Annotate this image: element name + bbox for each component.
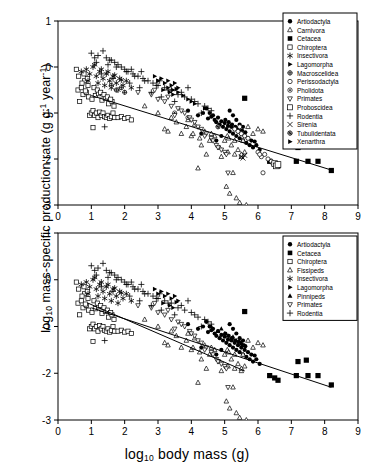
point-primates — [162, 313, 167, 317]
point-carnivora — [219, 154, 224, 158]
point-primates — [172, 327, 177, 331]
y-axis-label-rest: mass-specific production rate (g g — [39, 111, 53, 306]
figure-root: 012345678910-1-2-3ArtiodactylaCarnivoraC… — [0, 0, 374, 474]
point-rodentia — [119, 64, 124, 69]
series-primates — [136, 88, 231, 175]
point-artiodactyla — [196, 113, 200, 117]
point-chiroptera — [91, 339, 95, 343]
point-insectivora — [116, 300, 121, 305]
point-fissipeds — [156, 324, 161, 328]
legend-label: Artiodactyla — [297, 18, 331, 26]
panel-bottom: 012345678910-1-2-3ArtiodactylaCetaceaChi… — [42, 228, 361, 438]
point-chiroptera — [79, 299, 83, 303]
legend-bottom: ArtiodactylaCetaceaChiropteraFissipedsIn… — [283, 236, 357, 320]
point-fissipeds — [224, 399, 229, 403]
legend-label: Carnivora — [297, 27, 325, 34]
point-rodentia — [102, 124, 107, 129]
series-proboscidea — [272, 161, 281, 169]
point-rodentia — [89, 263, 94, 268]
point-carnivora — [251, 131, 256, 135]
point-insectivora — [94, 74, 99, 79]
point-rodentia — [100, 48, 105, 53]
y-axis-label-sup2: -1 — [38, 68, 48, 76]
legend-label: Insectivora — [297, 52, 328, 59]
point-carnivora — [227, 191, 232, 195]
x-tick-label: 4 — [189, 426, 195, 437]
point-rodentia — [185, 298, 190, 303]
point-cetacea — [242, 96, 247, 101]
legend-label: Lagomorpha — [297, 284, 333, 292]
point-chiroptera — [83, 89, 87, 93]
y-axis-label-end: ) — [39, 63, 53, 67]
point-chiroptera — [74, 280, 78, 284]
point-artiodactyla — [216, 116, 220, 120]
legend-label: Sirenia — [297, 121, 317, 128]
point-rodentia — [89, 51, 94, 56]
legend-marker-filled-square — [288, 36, 293, 41]
point-insectivora — [102, 296, 107, 301]
point-artiodactyla — [231, 327, 235, 331]
y-tick-label: -3 — [42, 415, 51, 426]
point-artiodactyla — [234, 118, 238, 122]
y-axis-label-log: log — [39, 316, 53, 333]
point-insectivora — [114, 80, 119, 85]
x-axis-label-sub: 10 — [144, 453, 154, 463]
x-tick-label: 6 — [255, 426, 261, 437]
point-primates — [136, 304, 141, 308]
point-cetacea — [315, 159, 320, 164]
x-tick-label: 0 — [55, 211, 61, 222]
point-chiroptera — [111, 324, 115, 328]
legend-label: Xenarthra — [297, 138, 326, 145]
point-rodentia — [95, 53, 100, 58]
point-carnivora — [169, 115, 174, 119]
legend-label: Fissipeds — [297, 267, 324, 275]
x-tick-label: 2 — [122, 211, 128, 222]
point-fissipeds — [179, 345, 184, 349]
y-axis-label-sup1: -1 — [38, 104, 48, 112]
point-chiroptera — [77, 287, 81, 291]
point-primates — [166, 308, 171, 312]
legend-marker-filled-circle — [288, 19, 292, 23]
point-chiroptera — [111, 111, 115, 115]
point-primates — [166, 95, 171, 99]
point-rodentia — [179, 303, 184, 308]
y-tick-label: -2 — [42, 368, 51, 379]
x-tick-label: 4 — [189, 211, 195, 222]
series-primates — [136, 301, 231, 389]
point-rodentia — [172, 312, 177, 317]
point-macroscelidea — [123, 90, 127, 94]
legend-label: Chiroptera — [297, 258, 327, 266]
chart-canvas: 012345678910-1-2-3ArtiodactylaCarnivoraC… — [0, 0, 374, 474]
point-fissipeds — [246, 338, 251, 342]
point-fissipeds — [219, 368, 224, 372]
point-artiodactyla — [254, 357, 258, 361]
point-primates — [162, 100, 167, 104]
point-insectivora — [121, 296, 126, 301]
legend-marker-open-square-lg — [287, 105, 292, 110]
point-fissipeds — [169, 329, 174, 333]
legend-label: Cetacea — [297, 35, 321, 42]
point-fissipeds — [162, 340, 167, 344]
legend-marker-open-square — [288, 259, 292, 263]
legend-label: Primates — [297, 95, 322, 102]
point-carnivora — [246, 124, 251, 128]
legend-label: Tubulidentata — [297, 130, 336, 137]
point-proboscidea — [275, 162, 281, 168]
point-carnivora — [232, 152, 237, 156]
point-carnivora — [204, 152, 209, 156]
point-tubulidentata — [216, 125, 220, 129]
x-tick-label: 3 — [155, 211, 161, 222]
point-insectivora — [87, 71, 92, 76]
point-carnivora — [196, 166, 201, 170]
x-tick-label: 5 — [222, 426, 228, 437]
x-tick-label: 8 — [322, 426, 328, 437]
point-insectivora — [84, 279, 89, 284]
point-rodentia — [104, 268, 109, 273]
point-artiodactyla — [234, 331, 238, 335]
point-insectivora — [96, 293, 101, 298]
point-lagomorpha — [171, 92, 175, 97]
point-cetacea — [304, 358, 309, 363]
point-fissipeds — [234, 410, 239, 414]
point-primates — [172, 114, 177, 118]
point-primates — [169, 318, 174, 322]
